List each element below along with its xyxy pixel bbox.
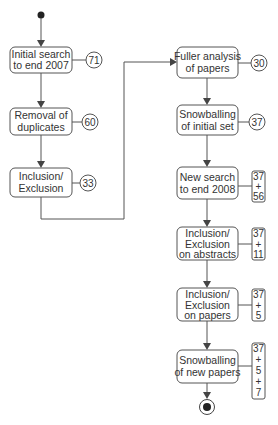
svg-text:37: 37 <box>253 289 265 300</box>
step-label: of initial set <box>181 120 234 132</box>
count-badge: 37 + 5 <box>252 289 265 321</box>
step-inclusion-exclusion: Inclusion/ Exclusion <box>10 168 72 197</box>
step-label: Fuller analysis <box>174 50 241 62</box>
count-badge: 37 <box>249 114 265 130</box>
step-label: Removal of <box>14 109 67 121</box>
count-badge: 37 + 11 <box>252 228 265 260</box>
step-label: Inclusion/ <box>19 170 63 182</box>
step-label: Snowballing <box>179 108 236 120</box>
count-badge: 71 <box>86 52 102 68</box>
step-label: to end 2008 <box>180 183 236 195</box>
svg-text:5: 5 <box>256 365 262 376</box>
step-inclusion-papers: Inclusion/ Exclusion on papers <box>177 288 238 321</box>
step-snowballing-initial: Snowballing of initial set <box>177 105 238 135</box>
step-label: of papers <box>186 62 230 74</box>
step-label: on papers <box>184 309 231 321</box>
step-inclusion-abstracts: Inclusion/ Exclusion on abstracts <box>177 227 238 260</box>
count-badge: 37 + 56 <box>252 171 265 202</box>
count-badge: 60 <box>82 114 98 130</box>
arrow-icon <box>203 160 211 167</box>
step-label: of new papers <box>175 366 241 378</box>
svg-text:56: 56 <box>253 191 265 202</box>
svg-text:33: 33 <box>82 178 94 189</box>
flowchart-canvas: Initial search to end 2007 71 Removal of… <box>0 0 278 425</box>
svg-text:71: 71 <box>88 55 100 66</box>
step-label: New search <box>180 171 236 183</box>
arrow-icon <box>203 220 211 227</box>
count-badge: 30 <box>251 55 267 71</box>
svg-text:37: 37 <box>251 117 263 128</box>
svg-text:11: 11 <box>253 249 264 260</box>
svg-text:7: 7 <box>256 387 262 398</box>
step-new-search: New search to end 2008 <box>177 167 238 199</box>
step-label: Snowballing <box>179 354 236 366</box>
arrow-icon <box>37 40 45 47</box>
start-node <box>38 12 45 19</box>
arrow-icon <box>37 101 45 108</box>
step-removal-of-duplicates: Removal of duplicates <box>10 108 72 135</box>
step-label: duplicates <box>17 121 64 133</box>
svg-text:60: 60 <box>84 117 96 128</box>
step-label: on abstracts <box>179 248 236 260</box>
svg-text:5: 5 <box>256 310 262 321</box>
step-snowballing-new: Snowballing of new papers <box>175 350 241 383</box>
arrow-icon <box>203 392 211 399</box>
step-fuller-analysis: Fuller analysis of papers <box>174 47 241 78</box>
step-label: to end 2007 <box>13 59 69 71</box>
arrow-icon <box>37 161 45 168</box>
step-label: Exclusion <box>19 182 64 194</box>
arrow-icon <box>203 281 211 288</box>
svg-text:37: 37 <box>253 343 265 354</box>
svg-text:+: + <box>256 376 262 387</box>
count-badge: 33 <box>80 175 96 191</box>
svg-text:37: 37 <box>253 228 265 239</box>
arrow-icon <box>203 98 211 105</box>
end-node <box>200 400 215 415</box>
count-badge: 37 + 5 + 7 <box>252 343 265 399</box>
arrow-icon <box>203 343 211 350</box>
svg-text:+: + <box>256 354 262 365</box>
svg-text:30: 30 <box>253 58 265 69</box>
step-initial-search: Initial search to end 2007 <box>10 47 72 73</box>
